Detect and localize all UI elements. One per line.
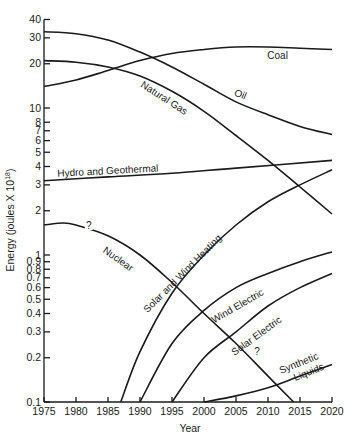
x-tick-label: 1985 [96,405,120,417]
y-tick-label: 0.3 [26,325,41,337]
y-tick-label: 20 [29,57,41,69]
curve-label-coal: Coal [267,50,288,61]
uncertainty-marker: ? [254,346,260,357]
y-tick-label: 2 [35,204,41,216]
x-tick-label: 2000 [192,405,216,417]
curve-labels: CoalOilNatural GasHydro and Geothermal??… [57,50,325,383]
x-tick-label: 1980 [64,405,88,417]
curve-label-wind-electric: Wind Electric [209,286,265,325]
x-tick-label: 1995 [160,405,184,417]
x-tick-label: 2005 [224,405,248,417]
x-tick-label: 1990 [128,405,152,417]
x-tick-label: 1975 [32,405,56,417]
curve-coal [44,47,332,87]
y-axis-title: Energy (joules X 1018) [4,169,16,272]
energy-chart: 40302010876543210.90.80.70.60.50.40.30.2… [0,0,355,446]
y-tick-label: 0.2 [26,351,41,363]
y-tick-label: 10 [29,102,41,114]
y-tick-label: 0.5 [26,293,41,305]
curve-label-oil: Oil [233,87,248,102]
x-tick-label: 2010 [256,405,280,417]
y-tick-label: 4 [35,160,41,172]
x-axis-title: Year [179,422,201,434]
y-tick-label: 40 [29,13,41,25]
y-tick-label: 30 [29,31,41,43]
x-tick-label: 2020 [320,405,344,417]
uncertainty-marker: ? [86,220,92,231]
y-tick-label: 6 [35,134,41,146]
curves [44,32,332,402]
curve-nuclear [44,223,294,402]
y-tick-label: 5 [35,146,41,158]
x-tick-label: 2015 [288,405,312,417]
curve-label-solar-and-wind-heating: Solar and Wind Heating [141,232,223,314]
y-tick-label: 0.4 [26,307,41,319]
y-tick-label: 3 [35,178,41,190]
y-tick-label: 0.6 [26,281,41,293]
